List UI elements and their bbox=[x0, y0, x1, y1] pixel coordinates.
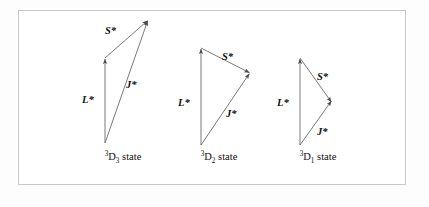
state-label-d2: 3D2 state bbox=[184, 152, 254, 163]
state-term-d2: D bbox=[204, 151, 212, 162]
state-suffix-d1: state bbox=[314, 151, 336, 162]
figure-root: L* S* J* L* S* J* L* S* J* 3D3 state 3D2… bbox=[0, 0, 429, 207]
state-term-d1: D bbox=[303, 151, 311, 162]
state-term-d3: D bbox=[108, 151, 116, 162]
state-suffix-d3: state bbox=[119, 151, 141, 162]
state-label-d3: 3D3 state bbox=[88, 152, 158, 163]
vector-label-L-d2: L* bbox=[178, 98, 190, 109]
vector-label-L-d1: L* bbox=[277, 98, 289, 109]
vector-diagram-canvas bbox=[0, 0, 429, 207]
vector-label-S-d1: S* bbox=[317, 72, 328, 83]
state-suffix-d2: state bbox=[215, 151, 237, 162]
vector-J-d1 bbox=[300, 101, 331, 145]
vector-label-J-d3: J* bbox=[126, 80, 137, 91]
vector-label-S-d3: S* bbox=[105, 26, 116, 37]
state-label-d1: 3D1 state bbox=[283, 152, 353, 163]
vector-label-L-d3: L* bbox=[82, 95, 94, 106]
vector-label-J-d1: J* bbox=[317, 127, 328, 138]
vector-label-J-d2: J* bbox=[226, 109, 237, 120]
vector-label-S-d2: S* bbox=[222, 52, 233, 63]
diagram-d2-vectors bbox=[201, 48, 249, 145]
